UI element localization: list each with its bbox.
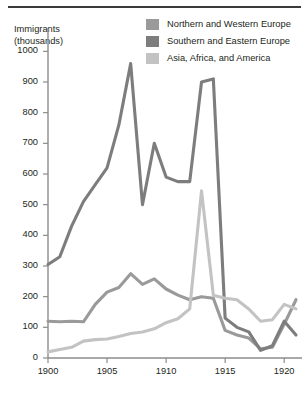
line-chart-plot-area: 01002003004005006007008009001000 1900190… xyxy=(0,0,307,393)
chart-svg xyxy=(0,0,307,393)
y-axis-tick-label: 600 xyxy=(6,168,38,178)
series-line-0 xyxy=(48,274,296,349)
y-axis-tick-label: 0 xyxy=(6,352,38,362)
x-axis-tick-label: 1905 xyxy=(87,366,127,376)
y-axis-tick-label: 700 xyxy=(6,137,38,147)
series-line-1 xyxy=(48,64,296,351)
y-axis-tick-label: 500 xyxy=(6,199,38,209)
y-axis-tick-label: 100 xyxy=(6,321,38,331)
series-line-2 xyxy=(48,191,296,352)
x-axis-tick-label: 1915 xyxy=(205,366,245,376)
x-axis-tick-label: 1920 xyxy=(264,366,304,376)
x-axis-tick-label: 1900 xyxy=(28,366,68,376)
y-axis-tick-label: 300 xyxy=(6,260,38,270)
y-axis-tick-label: 400 xyxy=(6,229,38,239)
y-axis-tick-label: 800 xyxy=(6,107,38,117)
x-axis-tick-label: 1910 xyxy=(146,366,186,376)
y-axis-tick-label: 900 xyxy=(6,76,38,86)
y-axis-tick-label: 200 xyxy=(6,291,38,301)
y-axis-tick-label: 1000 xyxy=(6,45,38,55)
